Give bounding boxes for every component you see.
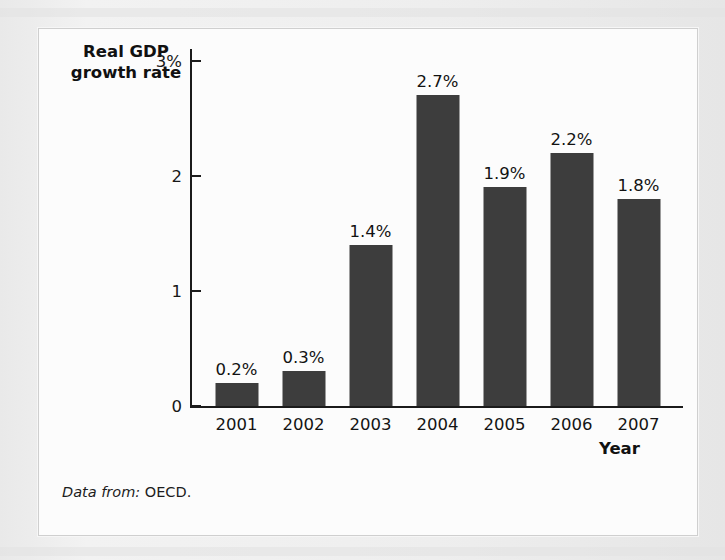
- bar[interactable]: [282, 371, 325, 406]
- x-axis-category-label: 2004: [404, 415, 471, 434]
- bar-value-label: 1.9%: [484, 164, 526, 183]
- x-axis-category-label: 2003: [337, 415, 404, 434]
- y-axis-tick-label: 2: [39, 166, 182, 185]
- page-ghost-text-line: [0, 8, 725, 17]
- bar-slot: 1.9%: [471, 49, 538, 406]
- x-axis-category-label: 2007: [605, 415, 672, 434]
- bar-value-label: 1.8%: [618, 176, 660, 195]
- page-ghost-text-line: [0, 547, 725, 556]
- figure-panel: Real GDP growth rate 0123% 0.2%0.3%1.4%2…: [38, 28, 698, 536]
- y-axis-tick: 0: [39, 405, 201, 407]
- y-axis-tick: 1: [39, 290, 201, 292]
- source-note-value: OECD.: [145, 484, 191, 500]
- x-axis-category-label: 2002: [270, 415, 337, 434]
- bar-slot: 2.2%: [538, 49, 605, 406]
- y-axis-tick-label: 0: [39, 397, 182, 416]
- y-axis-tick: 3%: [39, 60, 201, 62]
- bar-slot: 1.8%: [605, 49, 672, 406]
- bar[interactable]: [550, 153, 593, 406]
- y-axis-tick-label: 1: [39, 281, 182, 300]
- x-axis-title: Year: [599, 439, 640, 458]
- chart-plot-area: Real GDP growth rate 0123% 0.2%0.3%1.4%2…: [39, 29, 699, 537]
- bar[interactable]: [483, 187, 526, 406]
- bar-value-label: 2.2%: [551, 130, 593, 149]
- bar[interactable]: [215, 383, 258, 406]
- x-axis-category-label: 2005: [471, 415, 538, 434]
- source-note: Data from: OECD.: [62, 484, 191, 500]
- y-axis-tick: 2: [39, 175, 201, 177]
- source-note-lead: Data from:: [62, 484, 140, 500]
- x-axis-category-label: 2001: [203, 415, 270, 434]
- bar[interactable]: [416, 95, 459, 406]
- y-axis-tick-label: 3%: [39, 51, 182, 70]
- bar-value-label: 0.3%: [283, 348, 325, 367]
- bar-series: 0.2%0.3%1.4%2.7%1.9%2.2%1.8%: [192, 49, 683, 406]
- bar-value-label: 2.7%: [417, 72, 459, 91]
- bar[interactable]: [349, 245, 392, 406]
- bar-slot: 1.4%: [337, 49, 404, 406]
- bar-value-label: 0.2%: [216, 360, 258, 379]
- x-axis-category-label: 2006: [538, 415, 605, 434]
- bar[interactable]: [617, 199, 660, 406]
- bar-slot: 2.7%: [404, 49, 471, 406]
- bar-slot: 0.2%: [203, 49, 270, 406]
- bar-value-label: 1.4%: [350, 222, 392, 241]
- x-axis-line: [190, 406, 683, 408]
- bar-slot: 0.3%: [270, 49, 337, 406]
